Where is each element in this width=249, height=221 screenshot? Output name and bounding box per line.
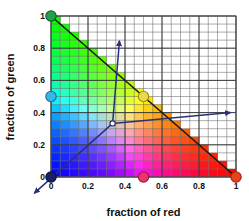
chromaticity-cell bbox=[181, 153, 191, 161]
chromaticity-cell bbox=[107, 72, 117, 80]
marker-green-primary bbox=[46, 11, 56, 21]
chromaticity-cell bbox=[134, 113, 144, 121]
chromaticity-cell bbox=[60, 40, 70, 48]
chromaticity-cell bbox=[79, 129, 89, 137]
chromaticity-cell bbox=[134, 105, 144, 113]
chromaticity-cell bbox=[70, 113, 80, 121]
chromaticity-cell bbox=[79, 48, 89, 56]
chromaticity-cell bbox=[107, 113, 117, 121]
chromaticity-cell bbox=[70, 169, 80, 177]
chromaticity-cell bbox=[208, 169, 218, 177]
chromaticity-cell bbox=[51, 64, 61, 72]
chromaticity-cell bbox=[218, 169, 228, 177]
chromaticity-cell bbox=[97, 153, 107, 161]
chromaticity-cell bbox=[79, 88, 89, 96]
chromaticity-cell bbox=[199, 169, 209, 177]
chromaticity-cell bbox=[60, 105, 70, 113]
chromaticity-cell bbox=[125, 88, 135, 96]
chromaticity-cell bbox=[88, 80, 98, 88]
chromaticity-cell bbox=[70, 161, 80, 169]
chromaticity-cell bbox=[79, 80, 89, 88]
chromaticity-cell bbox=[60, 72, 70, 80]
chromaticity-cell bbox=[79, 121, 89, 129]
chromaticity-cell bbox=[162, 161, 172, 169]
chromaticity-cell bbox=[51, 161, 61, 169]
chromaticity-cell bbox=[97, 64, 107, 72]
chromaticity-cell bbox=[181, 145, 191, 153]
chromaticity-cell bbox=[51, 113, 61, 121]
chromaticity-cell bbox=[171, 169, 181, 177]
chromaticity-cell bbox=[134, 153, 144, 161]
chromaticity-cell bbox=[171, 153, 181, 161]
chromaticity-cell bbox=[181, 169, 191, 177]
chromaticity-cell bbox=[60, 97, 70, 105]
chromaticity-cell bbox=[153, 137, 163, 145]
chromaticity-cell bbox=[97, 145, 107, 153]
chromaticity-cell bbox=[125, 113, 135, 121]
y-tick-label: 0.8 bbox=[33, 43, 45, 53]
chromaticity-cell bbox=[70, 121, 80, 129]
chromaticity-cell bbox=[79, 161, 89, 169]
chromaticity-cell bbox=[107, 161, 117, 169]
chromaticity-cell bbox=[107, 169, 117, 177]
chromaticity-cell bbox=[60, 129, 70, 137]
chromaticity-cell bbox=[125, 105, 135, 113]
chromaticity-cell bbox=[60, 137, 70, 145]
chromaticity-cell bbox=[125, 137, 135, 145]
chromaticity-cell bbox=[162, 137, 172, 145]
chromaticity-cell bbox=[79, 153, 89, 161]
chromaticity-cell bbox=[51, 153, 61, 161]
chromaticity-cell bbox=[116, 129, 126, 137]
chromaticity-cell bbox=[171, 129, 181, 137]
chromaticity-cell bbox=[144, 129, 154, 137]
chromaticity-cell bbox=[88, 161, 98, 169]
chromaticity-cell bbox=[51, 129, 61, 137]
chromaticity-cell bbox=[79, 64, 89, 72]
chromaticity-cell bbox=[51, 121, 61, 129]
chromaticity-cell bbox=[51, 105, 61, 113]
x-tick-label: 0.6 bbox=[156, 181, 168, 191]
chromaticity-cell bbox=[97, 137, 107, 145]
chromaticity-cell bbox=[190, 169, 200, 177]
chromaticity-cell bbox=[60, 48, 70, 56]
chromaticity-cell bbox=[60, 121, 70, 129]
chromaticity-cell bbox=[97, 169, 107, 177]
chromaticity-cell bbox=[208, 161, 218, 169]
chromaticity-cell bbox=[116, 105, 126, 113]
chromaticity-cell bbox=[181, 161, 191, 169]
chromaticity-cell bbox=[181, 137, 191, 145]
chromaticity-cell bbox=[125, 169, 135, 177]
chromaticity-cell bbox=[134, 129, 144, 137]
chromaticity-cell bbox=[144, 121, 154, 129]
chromaticity-cell bbox=[116, 80, 126, 88]
chromaticity-cell bbox=[125, 161, 135, 169]
chromaticity-cell bbox=[190, 153, 200, 161]
chromaticity-plot: 00.20.40.60.81 00.20.40.60.81 fraction o… bbox=[0, 0, 249, 221]
chromaticity-cell bbox=[162, 153, 172, 161]
chromaticity-cell bbox=[171, 145, 181, 153]
chromaticity-cell bbox=[88, 129, 98, 137]
chromaticity-cell bbox=[60, 32, 70, 40]
chromaticity-cell bbox=[107, 137, 117, 145]
chromaticity-cell bbox=[60, 145, 70, 153]
chromaticity-cell bbox=[51, 56, 61, 64]
chromaticity-cell bbox=[70, 88, 80, 96]
chromaticity-cell bbox=[107, 129, 117, 137]
chromaticity-cell bbox=[162, 121, 172, 129]
chromaticity-cell bbox=[125, 97, 135, 105]
chromaticity-cell bbox=[144, 145, 154, 153]
chromaticity-cell bbox=[70, 137, 80, 145]
chromaticity-cell bbox=[162, 169, 172, 177]
chromaticity-cell bbox=[70, 105, 80, 113]
chromaticity-cell bbox=[116, 88, 126, 96]
chromaticity-cell bbox=[88, 121, 98, 129]
chromaticity-cell bbox=[199, 161, 209, 169]
marker-white-origin bbox=[110, 121, 115, 126]
chromaticity-cell bbox=[125, 145, 135, 153]
chromaticity-cell bbox=[79, 105, 89, 113]
x-tick-label: 0.8 bbox=[193, 181, 205, 191]
chromaticity-cell bbox=[70, 80, 80, 88]
chromaticity-cell bbox=[88, 88, 98, 96]
chromaticity-cell bbox=[79, 137, 89, 145]
y-tick-label: 0 bbox=[40, 172, 45, 182]
